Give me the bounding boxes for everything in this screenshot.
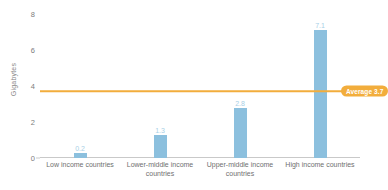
- bar-slot: 1.3: [120, 14, 200, 158]
- plot-area: 8 6 4 2 0 0.2 1.3 2.8: [40, 14, 360, 158]
- bar-slot: 2.8: [200, 14, 280, 158]
- y-axis-title: Gigabytes: [10, 50, 17, 110]
- bar-value-label: 1.3: [155, 127, 165, 134]
- y-tick-label: 6: [31, 46, 35, 55]
- bar-slot: 0.2: [40, 14, 120, 158]
- x-axis-labels: Low income countries Lower-middle income…: [40, 160, 360, 178]
- x-axis-category-label: Lower-middle income countries: [120, 160, 200, 178]
- bar-value-label: 0.2: [75, 145, 85, 152]
- y-tick-label: 4: [31, 82, 35, 91]
- average-line: [40, 91, 360, 93]
- y-tick-label: 8: [31, 10, 35, 19]
- y-tick-label: 0: [31, 154, 35, 163]
- x-axis-category-label: High income countries: [280, 160, 360, 178]
- bar-series: 0.2 1.3 2.8 7.1: [40, 14, 360, 158]
- x-axis-category-label: Upper-middle income countries: [200, 160, 280, 178]
- bar-value-label: 7.1: [315, 22, 325, 29]
- bar-value-label: 2.8: [235, 100, 245, 107]
- average-badge: Average 3.7: [341, 86, 388, 97]
- bar[interactable]: 2.8: [234, 108, 247, 158]
- y-tick-label: 2: [31, 118, 35, 127]
- bar[interactable]: 0.2: [74, 153, 87, 158]
- bar[interactable]: 1.3: [154, 135, 167, 158]
- bar[interactable]: 7.1: [314, 30, 327, 158]
- x-axis-category-label: Low income countries: [40, 160, 120, 178]
